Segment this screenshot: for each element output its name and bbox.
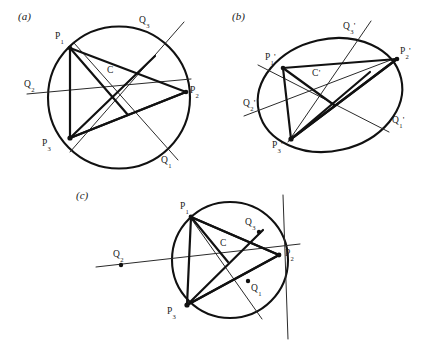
panel-c-label-q2: Q2 (113, 250, 123, 260)
panel-b-label-p3-base: P (272, 140, 277, 150)
panel-b-label-center: C' (312, 69, 320, 79)
panel-c-cevian-p1 (191, 217, 279, 255)
figure-canvas (0, 0, 429, 358)
panel-a-label-q1-sub: 1 (168, 162, 171, 169)
panel-c-label-p3-sub: 3 (173, 313, 176, 320)
panel-a-line-q3 (70, 22, 184, 152)
panel-c-qdot-q2 (119, 263, 123, 267)
panel-tag-b: (b) (232, 11, 245, 22)
panel-c-label-p1-base: P (180, 201, 185, 211)
panel-a-label-q1-base: Q (161, 155, 168, 165)
panel-c-label-center: C (220, 239, 226, 249)
panel-b-label-p1: P1' (265, 53, 276, 63)
panel-c-vertex-p2 (277, 253, 282, 258)
panel-a-label-q3: Q3 (139, 16, 149, 26)
panel-c-label-p3: P3 (167, 307, 176, 317)
panel-c-label-q1-sub: 1 (258, 290, 261, 297)
panel-c-label-p2-sub: 2 (291, 255, 294, 262)
panel-a-label-p2: P2 (190, 86, 199, 96)
panel-c-line-q2 (96, 244, 300, 267)
panel-a-label-center: C (107, 66, 113, 76)
panel-a-label-q3-sub: 3 (146, 22, 149, 29)
panel-tag-a: (a) (18, 11, 31, 22)
panel-b-label-q2: Q2' (243, 99, 255, 109)
panel-a-vertex-p1 (68, 46, 73, 51)
panel-a-label-q2: Q2 (24, 80, 34, 90)
panel-b-label-q1-base: Q (392, 115, 399, 125)
panel-b-label-p2-base: P (400, 46, 405, 56)
panel-a-label-p3-sub: 3 (48, 145, 51, 152)
panel-c-label-p1-sub: 1 (186, 208, 189, 215)
panel-b-label-q3: Q3' (343, 22, 355, 32)
panel-a-label-q3-base: Q (139, 15, 146, 25)
panel-a-label-p3: P3 (42, 139, 51, 149)
panel-c-label-p3-base: P (167, 306, 172, 316)
panel-b-label-p3: P3' (272, 141, 283, 151)
panel-b-label-p3-prime: ' (281, 140, 283, 150)
panel-c-cevian-p2 (187, 255, 279, 305)
panel-b-vertex-p3 (288, 136, 293, 141)
panel-a-vertex-p3 (67, 135, 72, 140)
panel-a-label-p2-sub: 2 (196, 92, 199, 99)
panel-tag-c: (c) (76, 190, 88, 201)
panel-a-triangle (70, 48, 186, 138)
panel-a-label-q1: Q1 (161, 156, 171, 166)
panel-b-cevian-p2 (291, 59, 397, 139)
panel-c-qdot-q3 (257, 230, 261, 234)
panel-c-label-p1: P1 (180, 202, 189, 212)
panel-b-label-q2-base: Q (243, 98, 250, 108)
panel-a-label-p3-base: P (42, 138, 47, 148)
figure-root: (a) (b) (c) P1 P2 P3 C Q1 Q2 Q3 P1' P2' … (0, 0, 429, 358)
panel-c-qdot-q1 (246, 279, 250, 283)
panel-b-vertex-p2 (395, 57, 400, 62)
panel-b-label-q3-base: Q (343, 21, 350, 31)
panel-a-label-q2-sub: 2 (31, 86, 34, 93)
panel-c-label-p2-base: P (285, 248, 290, 258)
panel-b-label-p2: P2' (400, 47, 411, 57)
panel-c-label-q1: Q1 (251, 284, 261, 294)
panel-b-line-q2 (244, 58, 396, 116)
panel-a-vertex-p2 (184, 90, 189, 95)
panel-b-label-p1-prime: ' (274, 52, 276, 62)
panel-c-label-q2-base: Q (113, 249, 120, 259)
panel-c-geometry (96, 195, 300, 339)
panel-a-label-p1-sub: 1 (61, 38, 64, 45)
panel-b-label-center-base: C (312, 68, 318, 78)
panel-c-label-q3-sub: 3 (252, 224, 255, 231)
panel-c-label-q3-base: Q (245, 217, 252, 227)
panel-a-cevian-p2 (70, 92, 186, 138)
panel-c-label-q2-sub: 2 (120, 256, 123, 263)
panel-c-vertex-p3 (184, 302, 189, 307)
panel-c-label-q3: Q3 (245, 218, 255, 228)
panel-b-label-p1-base: P (265, 52, 270, 62)
panel-a-label-q2-base: Q (24, 79, 31, 89)
panel-a-label-p1-base: P (55, 31, 60, 41)
panel-c-vertex-p1 (189, 215, 194, 220)
panel-a-geometry (27, 22, 191, 169)
panel-b-label-q1: Q1' (392, 116, 404, 126)
panel-c-label-q1-base: Q (251, 283, 258, 293)
panel-b-geometry (244, 21, 414, 166)
panel-c-label-p2: P2 (285, 249, 294, 259)
panel-b-label-p2-prime: ' (409, 46, 411, 56)
panel-a-label-p1: P1 (55, 32, 64, 42)
panel-b-vertex-p1 (281, 66, 286, 71)
panel-a-label-p2-base: P (190, 85, 195, 95)
